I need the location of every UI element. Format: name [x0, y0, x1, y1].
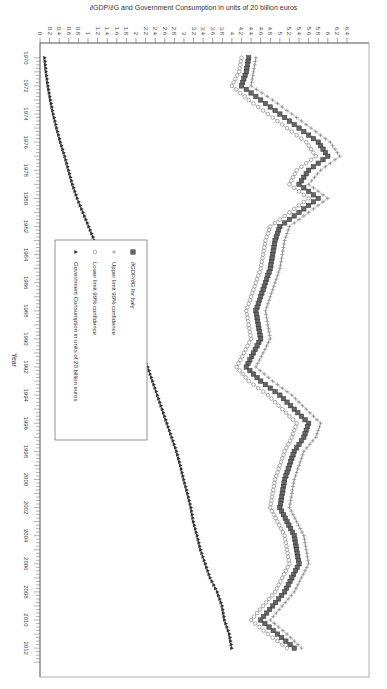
x-axis-title: Year [11, 353, 18, 368]
svg-text:2010: 2010 [23, 613, 29, 627]
svg-text:5: 5 [277, 32, 283, 36]
svg-text:1998: 1998 [23, 445, 29, 459]
svg-text:6: 6 [325, 32, 331, 36]
svg-text:3.8: 3.8 [219, 27, 225, 36]
svg-text:1992: 1992 [23, 360, 29, 374]
svg-text:2012: 2012 [23, 641, 29, 655]
svg-text:1988: 1988 [23, 304, 29, 318]
svg-text:2.8: 2.8 [171, 27, 177, 36]
svg-text:1994: 1994 [23, 388, 29, 402]
svg-text:0: 0 [37, 32, 43, 36]
svg-text:4.8: 4.8 [267, 27, 273, 36]
svg-text:4.2: 4.2 [238, 27, 244, 36]
lower-limit-series [230, 56, 318, 650]
svg-text:1996: 1996 [23, 417, 29, 431]
svg-text:1976: 1976 [23, 135, 29, 149]
svg-text:0.4: 0.4 [56, 27, 62, 36]
svg-text:1982: 1982 [23, 220, 29, 234]
svg-text:0.2: 0.2 [47, 27, 53, 36]
legend-item: Government Consumption in units of 20 bi… [73, 250, 79, 401]
svg-text:1.6: 1.6 [114, 27, 120, 36]
svg-text:2.2: 2.2 [143, 27, 149, 36]
chart-figure: 00.20.40.60.811.21.41.61.822.22.42.62.83… [0, 0, 387, 689]
svg-text:1990: 1990 [23, 332, 29, 346]
svg-text:1986: 1986 [23, 276, 29, 290]
svg-text:1984: 1984 [23, 248, 29, 262]
svg-text:2.6: 2.6 [162, 27, 168, 36]
svg-text:3.6: 3.6 [210, 27, 216, 36]
svg-text:1972: 1972 [23, 79, 29, 93]
svg-text:2004: 2004 [23, 529, 29, 543]
svg-text:6.4: 6.4 [344, 27, 350, 36]
svg-text:2.4: 2.4 [152, 27, 158, 36]
svg-text:1: 1 [85, 32, 91, 36]
svg-text:Upper limit 99% confidence: Upper limit 99% confidence [111, 262, 117, 336]
y-axis-title: ∂GDP/∂G and Government Consumption in un… [90, 4, 298, 12]
chart-legend: ∂GDP/∂G for ItalyUpper limit 99% confide… [55, 240, 147, 440]
svg-text:2008: 2008 [23, 585, 29, 599]
svg-text:0.6: 0.6 [66, 27, 72, 36]
svg-text:4.6: 4.6 [258, 27, 264, 36]
svg-text:4: 4 [229, 32, 235, 36]
svg-text:1980: 1980 [23, 192, 29, 206]
svg-text:5.6: 5.6 [306, 27, 312, 36]
upper-limit-series [249, 56, 342, 650]
svg-text:3.4: 3.4 [200, 27, 206, 36]
x-axis: 1970197219741976197819801982198419861988… [23, 43, 40, 677]
legend-item: Lower limit 99% confidence [92, 250, 98, 336]
svg-text:4.4: 4.4 [248, 27, 254, 36]
svg-text:1978: 1978 [23, 164, 29, 178]
svg-text:2002: 2002 [23, 501, 29, 515]
svg-text:2: 2 [133, 32, 139, 36]
svg-text:3.2: 3.2 [191, 27, 197, 36]
svg-text:1.8: 1.8 [123, 27, 129, 36]
legend-item: Upper limit 99% confidence [111, 250, 117, 336]
svg-text:2006: 2006 [23, 557, 29, 571]
y-axis: 00.20.40.60.811.21.41.61.822.22.42.62.83… [37, 27, 369, 43]
svg-text:6.2: 6.2 [334, 27, 340, 36]
svg-text:3: 3 [181, 32, 187, 36]
svg-text:5.8: 5.8 [315, 27, 321, 36]
svg-text:0.8: 0.8 [75, 27, 81, 36]
line-chart: 00.20.40.60.811.21.41.61.822.22.42.62.83… [0, 0, 387, 689]
svg-text:∂GDP/∂G for Italy: ∂GDP/∂G for Italy [130, 262, 136, 309]
svg-text:Lower limit 99% confidence: Lower limit 99% confidence [92, 262, 98, 336]
svg-text:5.4: 5.4 [296, 27, 302, 36]
dgdp-series [239, 56, 330, 651]
svg-text:1.4: 1.4 [104, 27, 110, 36]
svg-text:2000: 2000 [23, 473, 29, 487]
svg-text:1970: 1970 [23, 51, 29, 65]
svg-text:1974: 1974 [23, 107, 29, 121]
svg-text:Government Consumption in unit: Government Consumption in units of 20 bi… [73, 262, 79, 401]
svg-text:1.2: 1.2 [95, 27, 101, 36]
svg-text:5.2: 5.2 [286, 27, 292, 36]
